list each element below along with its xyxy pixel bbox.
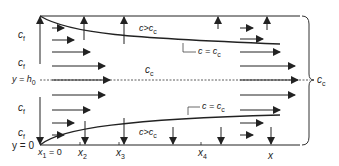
label-brace-cc: cc	[317, 75, 326, 87]
label-cf-lower-2: cf	[18, 128, 25, 140]
label-lower-c-gt-cc: c>cc	[139, 128, 157, 139]
label-cf-lower-1: cf	[18, 103, 25, 115]
lower-leader	[188, 107, 200, 115]
label-upper-c-eq-cc: c = cc	[198, 47, 221, 58]
label-x: x	[268, 151, 273, 161]
label-x1: x1 = 0	[38, 148, 62, 159]
lower-boundary-curve	[40, 115, 280, 145]
boundary-layer-diagram	[0, 0, 339, 166]
flow-arrows-left	[52, 28, 110, 135]
label-upper-c-gt-cc: c>cc	[139, 24, 157, 35]
label-y-0: y = 0	[12, 141, 34, 151]
upper-leader	[183, 43, 196, 52]
label-y-h0: y = h0	[12, 75, 36, 86]
label-cf-upper-1: cf	[18, 30, 25, 42]
label-x3: x3	[116, 148, 125, 160]
label-center-cc: cc	[145, 65, 154, 77]
label-x4: x4	[198, 148, 207, 160]
label-cf-upper-2: cf	[18, 58, 25, 70]
upper-boundary-curve	[40, 16, 280, 44]
label-lower-c-eq-cc: c = cc	[202, 102, 225, 113]
right-brace	[302, 16, 314, 145]
label-x2: x2	[78, 148, 87, 160]
